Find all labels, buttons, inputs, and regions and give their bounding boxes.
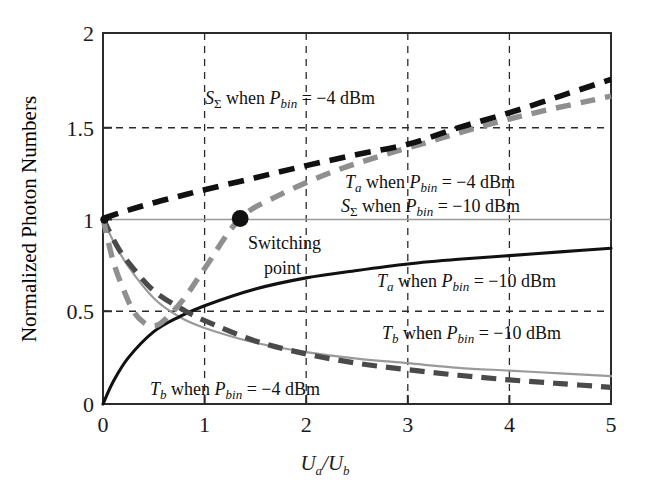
ann4-when: when [394,271,442,291]
y-tick-2: 2 [83,21,94,46]
ann5-psub: bin [458,331,475,346]
x-tick-3: 3 [402,412,413,437]
y-tick-1: 1 [83,208,94,233]
chart-svg: 2 1.5 1 0.5 0 0 1 2 3 4 5 Normalized Pho… [0,0,649,493]
y-axis-title: Normalized Photon Numbers [17,96,41,342]
x-tick-2: 2 [301,412,312,437]
ann3-p: P [405,196,417,216]
ann2-eq: = −4 dBm [437,172,515,192]
ann4-p: P [441,271,453,291]
ann2-p: P [409,172,421,192]
ann5-when: when [399,323,447,343]
ann5-p: P [446,323,458,343]
switching-line1: Switching [248,233,321,253]
ann2-when: when [362,172,410,192]
y-tick-0: 0 [83,392,94,417]
ann6-psub: bin [226,387,243,402]
ann1-eq: = −4 dBm [297,88,375,108]
y-tick-1p5: 1.5 [67,116,95,141]
y-tick-0p5: 0.5 [67,299,95,324]
ann5-eq: = −10 dBm [474,323,561,343]
ann3-when: when [358,196,406,216]
switching-line2: point [264,258,301,278]
switching-point-marker [232,210,249,227]
ann3-sigma: Σ [350,204,358,219]
ann6-when: when [167,379,215,399]
ann3-psub: bin [417,204,434,219]
ann6-eq: = −4 dBm [242,379,320,399]
ann1-p: P [269,88,281,108]
ann3-eq: = −10 dBm [433,196,520,216]
ann1-psub: bin [281,96,298,111]
x-tick-0: 0 [98,412,109,437]
origin-marker [100,215,108,223]
ann1-sigma: Σ [214,96,222,111]
x-axis-title: Ua/Ub [300,451,350,478]
x-title-sub-b: b [343,463,350,478]
ann1-s: S [205,88,214,108]
ann4-eq: = −10 dBm [469,271,556,291]
figure-container: 2 1.5 1 0.5 0 0 1 2 3 4 5 Normalized Pho… [0,0,649,493]
ann2-psub: bin [421,180,438,195]
ann1-when: when [222,88,270,108]
ann4-psub: bin [453,279,470,294]
svg-text:Ua/Ub: Ua/Ub [300,451,350,478]
x-tick-5: 5 [606,412,617,437]
x-tick-4: 4 [504,412,515,437]
ann6-p: P [214,379,226,399]
x-tick-1: 1 [199,412,210,437]
ann3-s: S [341,196,350,216]
